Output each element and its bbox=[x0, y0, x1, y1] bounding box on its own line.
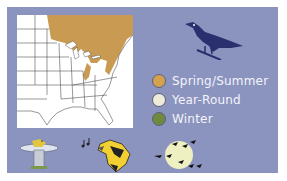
year-round-swatch-icon bbox=[152, 93, 166, 107]
legend-label: Winter bbox=[172, 112, 213, 126]
legend-item-year-round: Year-Round bbox=[152, 90, 268, 109]
winter-swatch-icon bbox=[152, 112, 166, 126]
legend-item-spring-summer: Spring/Summer bbox=[152, 71, 268, 90]
spring-summer-swatch-icon bbox=[152, 74, 166, 88]
birdbath-icon bbox=[18, 137, 60, 171]
singing-bird-icon bbox=[80, 136, 136, 174]
us-map-icon bbox=[17, 15, 133, 128]
legend-label: Year-Round bbox=[172, 93, 241, 107]
migration-moon-icon bbox=[152, 136, 212, 174]
legend: Spring/Summer Year-Round Winter bbox=[152, 71, 268, 128]
legend-item-winter: Winter bbox=[152, 109, 268, 128]
bird-silhouette-icon bbox=[177, 12, 249, 60]
legend-label: Spring/Summer bbox=[172, 74, 268, 88]
range-map bbox=[17, 15, 133, 128]
